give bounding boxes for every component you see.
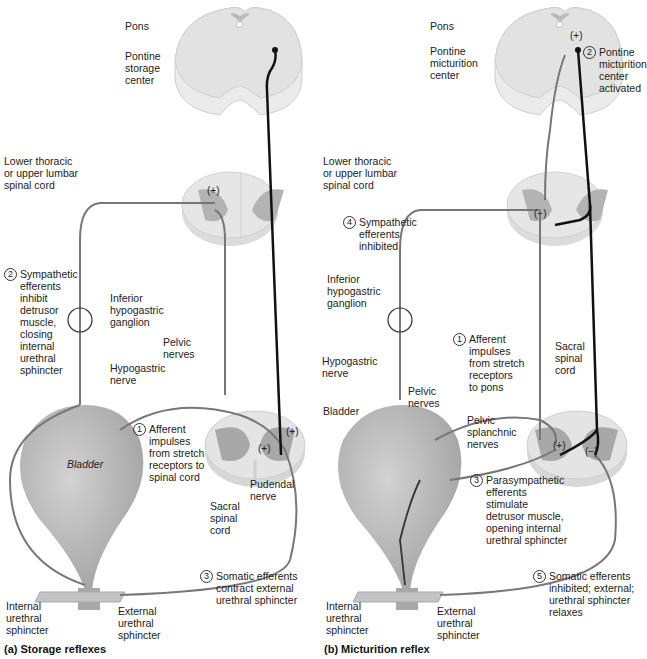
sign-sacral-a-2: (+) [258,443,271,454]
step-3-b: 3Parasympathetic efferents stimulate det… [470,474,567,546]
step-3-a: 3Somatic efferents contract external ure… [200,570,298,606]
label-pons-b: Pons [430,20,454,32]
step-4-b: 4Sympathetic efferents inhibited [343,216,417,252]
label-pons-a: Pons [125,20,149,32]
step-2-b: 2Pontine micturition center activated [583,46,647,94]
label-pelvic-splanchnic-nerves: Pelvic splanchnic nerves [467,414,517,450]
sign-thoracic-b: (−) [534,208,547,219]
step-1-b: 1Afferent impulses from stretch receptor… [453,333,524,393]
label-external-sphincter-a: External urethral sphincter [118,605,161,641]
pons-a [175,8,302,116]
sign-sacral-b-plus: (+) [553,440,566,451]
label-external-sphincter-b: External urethral sphincter [437,605,480,641]
label-pelvic-nerves-b: Pelvic nerves [408,385,440,409]
label-inferior-ganglion-a: Inferior hypogastric ganglion [110,292,164,328]
sign-pons-b: (+) [570,30,583,41]
label-inferior-ganglion-b: Inferior hypogastric ganglion [327,273,381,309]
sign-sacral-b-minus: (−) [585,446,598,457]
step-5-b: 5Somatic efferents inhibited; external; … [533,570,634,618]
label-hypogastric-nerve-a: Hypogastric nerve [110,362,165,386]
label-bladder-b: Bladder [323,405,359,417]
sign-sacral-a-1: (+) [286,426,299,437]
label-sacral-cord-a: Sacral spinal cord [210,500,240,536]
label-lower-thoracic-a: Lower thoracic or upper lumbar spinal co… [4,155,78,191]
step-1-a: 1Afferent impulses from stretch receptor… [133,423,204,483]
label-lower-thoracic-b: Lower thoracic or upper lumbar spinal co… [323,155,397,191]
label-sacral-cord-b: Sacral spinal cord [555,340,585,376]
label-pudendal-nerve: Pudendal nerve [250,478,294,502]
thoracic-cord-a [182,172,284,246]
label-internal-sphincter-a: Internal urethral sphincter [6,600,49,636]
step-2-a: 2Sympathetic efferents inhibit detrusor … [4,268,78,376]
bladder-a [20,405,143,610]
label-pontine-storage-center: Pontine storage center [125,50,161,86]
caption-a: (a) Storage reflexes [4,643,106,655]
label-pontine-micturition-center: Pontine micturition center [430,45,478,81]
label-bladder-a: Bladder [67,458,103,470]
sign-thoracic-a: (+) [207,185,220,196]
label-hypogastric-nerve-b: Hypogastric nerve [322,355,377,379]
label-pelvic-nerves-a: Pelvic nerves [163,336,195,360]
nerve-paths-a [10,203,296,595]
caption-b: (b) Micturition reflex [324,643,430,655]
label-internal-sphincter-b: Internal urethral sphincter [326,600,369,636]
